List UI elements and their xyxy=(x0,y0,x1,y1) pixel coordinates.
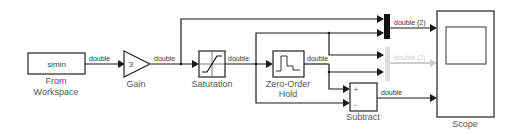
scope-screen-icon xyxy=(446,27,486,64)
signal-label-mux1-out: double (2) xyxy=(394,19,426,27)
subtract-plus: + xyxy=(354,86,358,93)
zoh-label-1: Zero-Order xyxy=(266,79,311,89)
signal-gain-out[interactable] xyxy=(151,15,384,68)
simulink-diagram: double double double double double (2 xyxy=(0,0,522,135)
scope-label: Scope xyxy=(452,119,478,129)
subtract-label: Subtract xyxy=(346,112,380,122)
gain-label: Gain xyxy=(126,79,145,89)
from-workspace-label-2: Workspace xyxy=(34,87,79,97)
signal-label-sat-out: double xyxy=(228,55,249,62)
signal-label-mux2-out: double (2) xyxy=(394,54,426,62)
scope-block[interactable] xyxy=(437,11,494,117)
saturation-block[interactable] xyxy=(199,51,225,77)
from-workspace-param: simin xyxy=(47,60,66,69)
zoh-label-2: Hold xyxy=(279,89,298,99)
subtract-minus: - xyxy=(354,100,357,109)
subtract-block[interactable]: + - xyxy=(350,83,377,111)
mux1-block[interactable] xyxy=(384,14,390,39)
saturation-label: Saturation xyxy=(191,79,232,89)
gain-value: 3 xyxy=(129,60,134,69)
zoh-block[interactable] xyxy=(273,51,304,77)
signal-label-gain-out: double xyxy=(154,55,175,62)
signal-label-fw-to-gain: double xyxy=(89,55,110,62)
from-workspace-label-1: From xyxy=(46,76,67,86)
signal-label-zoh-out: double xyxy=(307,55,328,62)
from-workspace-block[interactable]: simin xyxy=(28,53,85,74)
signal-label-sub-out: double xyxy=(381,89,402,96)
gain-block[interactable]: 3 xyxy=(124,51,150,77)
mux2-block[interactable] xyxy=(385,47,390,81)
